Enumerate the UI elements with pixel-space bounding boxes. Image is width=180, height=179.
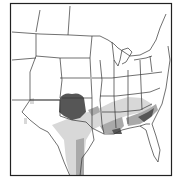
map-canvas <box>0 0 180 179</box>
map-frame <box>11 4 172 176</box>
state-boundaries <box>12 6 170 176</box>
us-map <box>0 0 180 179</box>
shade-light-regions <box>24 97 152 176</box>
